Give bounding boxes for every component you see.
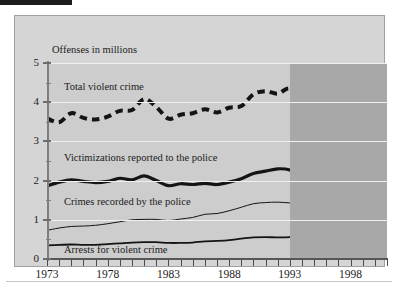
series-label-3: Crimes recorded by the police	[64, 196, 191, 207]
x-tick-label: 1998	[331, 268, 371, 280]
x-tick	[326, 260, 327, 266]
x-tick	[193, 260, 194, 266]
x-tick	[132, 260, 133, 266]
y-tick-label: 5	[17, 57, 39, 68]
y-tick-major	[43, 219, 51, 221]
page-rule	[6, 281, 392, 282]
x-tick	[156, 260, 157, 266]
x-tick	[229, 260, 230, 266]
x-tick-label: 1973	[27, 268, 67, 280]
y-tick-minor	[46, 239, 51, 240]
y-tick-minor	[46, 161, 51, 162]
y-tick-label: 1	[17, 214, 39, 225]
x-tick	[120, 260, 121, 266]
figure-frame: Offenses in millions Total violent crime…	[14, 15, 385, 267]
y-tick-label: 3	[17, 135, 39, 146]
x-tick	[144, 260, 145, 266]
x-tick	[83, 260, 84, 266]
y-tick-label: 4	[17, 96, 39, 107]
x-tick-label: 1983	[148, 268, 188, 280]
x-tick	[47, 260, 48, 266]
x-tick	[205, 260, 206, 266]
x-tick-label: 1978	[88, 268, 128, 280]
y-tick-major	[43, 140, 51, 142]
x-tick	[266, 260, 267, 266]
x-tick	[278, 260, 279, 266]
x-tick	[375, 260, 376, 266]
y-tick-minor	[46, 83, 51, 84]
gridline	[47, 181, 387, 182]
x-tick-label: 1988	[209, 268, 249, 280]
y-tick-label: 2	[17, 175, 39, 186]
gridline	[47, 141, 387, 142]
x-tick	[71, 260, 72, 266]
gridline	[47, 102, 387, 103]
x-tick	[241, 260, 242, 266]
series-label-1: Total violent crime	[64, 81, 144, 92]
x-tick	[290, 260, 291, 266]
x-tick	[217, 260, 218, 266]
y-axis-note: Offenses in millions	[52, 44, 137, 55]
x-tick	[363, 260, 364, 266]
x-tick	[387, 260, 388, 266]
x-tick	[253, 260, 254, 266]
x-tick	[181, 260, 182, 266]
y-tick-major	[43, 180, 51, 182]
x-tick	[108, 260, 109, 266]
plot-panel: Total violent crimeVictimizations report…	[47, 63, 387, 259]
shaded-region	[290, 63, 387, 259]
y-tick-major	[43, 101, 51, 103]
y-tick-minor	[46, 200, 51, 201]
gridline	[47, 220, 387, 221]
x-tick	[338, 260, 339, 266]
y-tick-minor	[46, 122, 51, 123]
x-tick	[59, 260, 60, 266]
y-tick-label: 0	[17, 253, 39, 264]
series-label-4: Arrests for violent crime	[64, 244, 168, 255]
x-tick	[351, 260, 352, 266]
x-tick	[168, 260, 169, 266]
x-tick-label: 1993	[270, 268, 310, 280]
gridline	[47, 63, 387, 64]
series-label-2: Victimizations reported to the police	[64, 152, 217, 163]
x-tick	[96, 260, 97, 266]
y-tick-major	[43, 62, 51, 64]
scan-crop-bar	[0, 0, 72, 5]
x-tick	[302, 260, 303, 266]
x-tick	[314, 260, 315, 266]
